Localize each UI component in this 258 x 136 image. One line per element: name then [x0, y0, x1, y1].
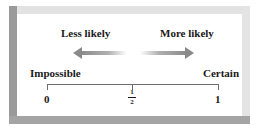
tick-label-half: 1 2 [128, 89, 136, 106]
frame-bevel-right [242, 6, 250, 124]
fraction-denominator: 2 [130, 98, 134, 106]
right-arrow-icon [140, 47, 194, 59]
less-likely-label: Less likely [61, 28, 110, 39]
tick-label-0: 0 [44, 94, 50, 105]
tick-label-1: 1 [215, 94, 221, 105]
frame-bevel-left [9, 6, 17, 124]
impossible-label: Impossible [30, 68, 81, 79]
certain-label: Certain [203, 68, 239, 79]
left-arrow-icon [73, 47, 127, 59]
fraction-numerator: 1 [130, 88, 134, 96]
frame-bevel-bottom [9, 116, 250, 124]
bevelled-frame [9, 6, 250, 124]
more-likely-label: More likely [160, 28, 214, 39]
tick-0 [47, 84, 48, 90]
probability-axis [47, 84, 219, 85]
frame-bevel-top [9, 6, 250, 14]
tick-1 [218, 84, 219, 90]
